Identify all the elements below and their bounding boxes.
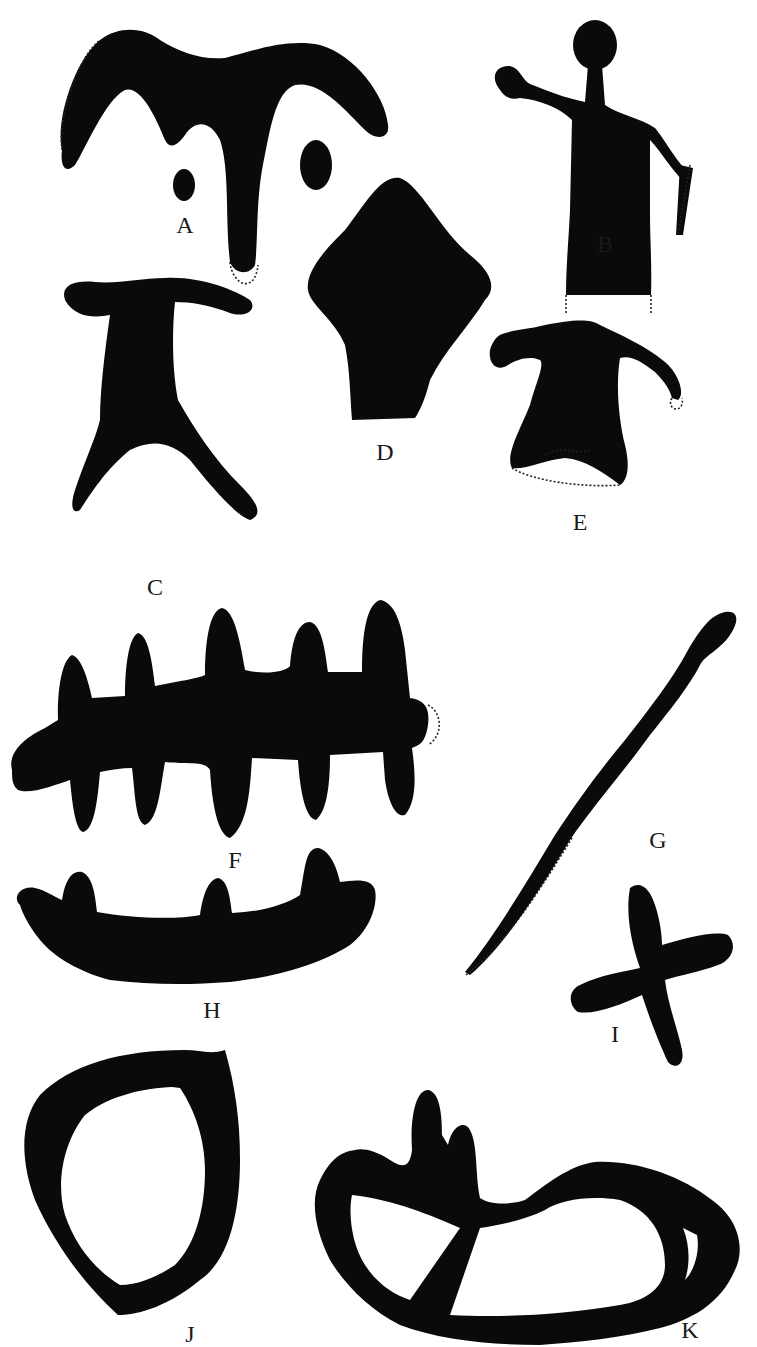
figure-label-b: B xyxy=(597,232,613,256)
figure-k xyxy=(315,1090,740,1345)
figure-c xyxy=(64,278,257,520)
figure-e xyxy=(490,320,683,485)
figure-j xyxy=(24,1050,240,1315)
figure-label-k: K xyxy=(681,1318,698,1342)
figure-label-i: I xyxy=(611,1022,619,1046)
figure-label-e: E xyxy=(573,510,588,534)
figure-i xyxy=(571,885,733,1066)
figure-f xyxy=(11,600,439,838)
figure-label-a: A xyxy=(176,213,193,237)
figure-label-j: J xyxy=(185,1322,194,1346)
figure-label-f: F xyxy=(228,848,241,872)
figure-label-g: G xyxy=(649,828,666,852)
figure-h xyxy=(17,848,376,984)
figure-d xyxy=(308,178,491,420)
figure-label-c: C xyxy=(147,575,163,599)
figure-label-d: D xyxy=(376,440,393,464)
figure-label-h: H xyxy=(203,998,220,1022)
figure-g xyxy=(465,612,736,975)
figure-b xyxy=(495,20,693,315)
petroglyph-plate: A B C D E F G H I J K xyxy=(0,0,757,1347)
